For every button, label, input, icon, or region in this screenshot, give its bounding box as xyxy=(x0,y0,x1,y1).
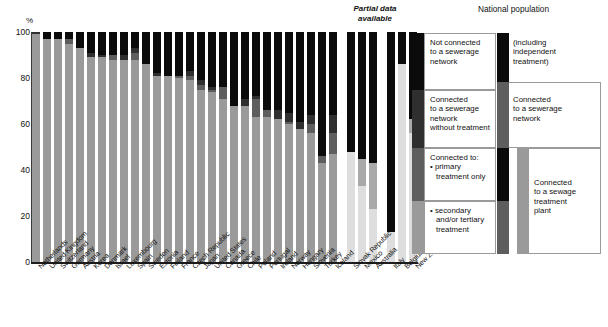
segment-not-connected xyxy=(252,32,260,96)
segment-secondary-tertiary xyxy=(296,129,304,262)
segment-secondary-tertiary xyxy=(307,133,315,262)
segment-not-connected xyxy=(358,32,366,159)
bar-slovak-republic xyxy=(347,32,355,262)
segment-not-connected xyxy=(347,32,355,152)
segment-secondary-tertiary xyxy=(347,152,355,262)
segment-no-treatment xyxy=(307,115,315,124)
bar-slovenia xyxy=(307,32,315,262)
segment-secondary-tertiary xyxy=(98,57,106,262)
bracket-independent-l1: (including xyxy=(513,38,546,47)
legend-not-connected-l2: to a sewerage xyxy=(430,47,479,56)
segment-no-treatment xyxy=(87,53,95,58)
segment-primary-only xyxy=(307,124,315,133)
legend-no-treatment-l3: network xyxy=(430,114,457,123)
segment-secondary-tertiary xyxy=(263,117,271,262)
segment-secondary-tertiary xyxy=(164,76,172,262)
segment-no-treatment xyxy=(208,87,216,89)
legend-swatch-no-treatment xyxy=(412,90,424,148)
segment-not-connected xyxy=(197,32,205,80)
segment-not-connected xyxy=(307,32,315,115)
segment-primary-only xyxy=(252,99,260,117)
segment-secondary-tertiary xyxy=(32,34,40,262)
segment-secondary-tertiary xyxy=(398,64,406,262)
segment-not-connected xyxy=(54,32,62,39)
segment-no-treatment xyxy=(186,71,194,76)
bar-italy xyxy=(387,32,395,262)
bar-chile xyxy=(241,32,249,262)
segment-primary-only xyxy=(65,39,73,44)
partial-data-line-2: available xyxy=(336,14,414,24)
segment-secondary-tertiary xyxy=(252,117,260,262)
bar-korea xyxy=(87,32,95,262)
segment-secondary-tertiary xyxy=(109,60,117,262)
segment-primary-only xyxy=(318,156,326,163)
legend-swatch-secondary xyxy=(412,201,424,254)
segment-not-connected xyxy=(164,32,172,76)
segment-no-treatment xyxy=(329,115,337,133)
legend-secondary-bullet: • secondary xyxy=(430,206,491,215)
segment-no-treatment xyxy=(296,122,304,129)
y-tick-0: 0 xyxy=(6,258,30,267)
bracket-plant-l1: Connected xyxy=(534,178,572,187)
segment-not-connected xyxy=(186,32,194,71)
bar-united-states xyxy=(208,32,216,262)
segment-no-treatment xyxy=(98,55,106,57)
segment-no-treatment xyxy=(274,110,282,119)
segment-not-connected xyxy=(131,32,139,48)
bar-israel xyxy=(109,32,117,262)
segment-primary-only xyxy=(219,87,227,99)
segment-not-connected xyxy=(153,32,161,73)
bar-netherlands xyxy=(32,32,40,262)
bracket-sewage-plant-label: Connected to a sewage treatment plant xyxy=(534,178,602,215)
segment-no-treatment xyxy=(153,73,161,75)
segment-secondary-tertiary xyxy=(208,92,216,262)
segment-not-connected xyxy=(318,32,326,156)
segment-secondary-tertiary xyxy=(120,60,128,262)
segment-not-connected xyxy=(369,32,377,163)
segment-primary-only xyxy=(197,85,205,90)
legend-not-connected-l1: Not connected xyxy=(430,38,480,47)
segment-not-connected xyxy=(175,32,183,76)
segment-primary-only xyxy=(208,90,216,92)
chart-root: % 100 80 60 40 20 0 NetherlandsUnited Ki… xyxy=(0,0,608,327)
bracket-independent-l3: treatment) xyxy=(513,57,549,66)
legend-primary-l3: treatment only xyxy=(430,172,491,181)
segment-not-connected xyxy=(274,32,282,110)
y-tick-20: 20 xyxy=(6,212,30,221)
segment-no-treatment xyxy=(131,48,139,53)
segment-not-connected xyxy=(65,32,73,39)
natpop-bar-not-connected xyxy=(497,33,509,82)
bar-hungary xyxy=(296,32,304,262)
legend-item-no-treatment: Connected to a sewerage network without … xyxy=(424,90,496,148)
bar-switzerland xyxy=(54,32,62,262)
segment-no-treatment xyxy=(197,80,205,85)
segment-no-treatment xyxy=(32,32,40,34)
bracket-plant-l3: treatment xyxy=(534,197,567,206)
bracket-plant-l4: plant xyxy=(534,206,551,215)
legend-no-treatment-l4: without treatment xyxy=(430,123,490,132)
segment-secondary-tertiary xyxy=(65,44,73,263)
segment-not-connected xyxy=(87,32,95,53)
y-tick-80: 80 xyxy=(6,74,30,83)
segment-not-connected xyxy=(329,32,337,115)
y-tick-40: 40 xyxy=(6,166,30,175)
segment-secondary-tertiary xyxy=(186,80,194,262)
bracket-plant-l2: to a sewage xyxy=(534,187,576,196)
bar-norway xyxy=(285,32,293,262)
segment-primary-only xyxy=(285,122,293,124)
segment-secondary-tertiary xyxy=(43,39,51,262)
segment-primary-only xyxy=(369,163,377,209)
bar-austria xyxy=(76,32,84,262)
legend-secondary-l4: treatment xyxy=(430,225,491,234)
bar-sweden xyxy=(142,32,150,262)
legend-secondary-l2: secondary xyxy=(435,206,471,215)
bar-france xyxy=(175,32,183,262)
segment-secondary-tertiary xyxy=(197,90,205,263)
bar-australia xyxy=(369,32,377,262)
segment-secondary-tertiary xyxy=(54,39,62,262)
legend-item-primary: Connected to: • primary treatment only xyxy=(424,148,496,201)
bracket-sewerage-l3: network xyxy=(513,114,540,123)
legend-primary-l2: primary xyxy=(435,162,461,171)
bar-luxembourg xyxy=(120,32,128,262)
segment-not-connected xyxy=(43,32,51,39)
